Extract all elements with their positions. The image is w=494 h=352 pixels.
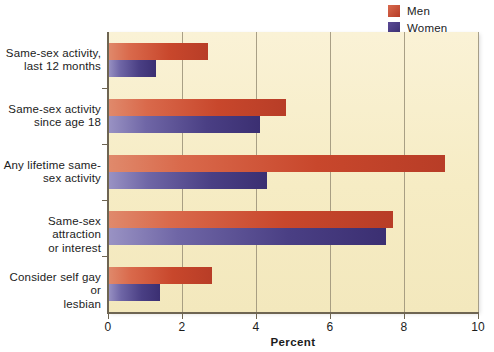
bar-men-0 [108,43,208,60]
category-label-0: Same-sex activity,last 12 months [0,47,101,74]
x-axis-tick-label: 8 [401,320,408,334]
x-axis-tick [182,313,183,319]
category-label-4: Consider self gay orlesbian [0,271,101,312]
bar-women-4 [108,284,160,301]
y-axis-line [107,32,109,313]
x-axis-tick [478,313,479,319]
category-label-line: since age 18 [0,116,101,130]
bar-women-3 [108,228,386,245]
chart-figure: Men Women Same-sex activity,last 12 mont… [0,0,494,352]
x-axis-tick-label: 2 [179,320,186,334]
legend-label-men: Men [407,5,430,17]
gridline [478,32,479,312]
bar-men-3 [108,211,393,228]
category-label-line: Same-sex attraction [0,215,101,242]
category-label-line: lesbian [0,298,101,312]
category-label-3: Same-sex attractionor interest [0,215,101,256]
gridline [330,32,331,312]
legend-swatch-men-icon [388,5,400,17]
legend-item-men: Men [388,3,490,18]
x-axis-line [107,312,479,314]
bar-women-2 [108,172,267,189]
x-axis-tick-label: 4 [253,320,260,334]
x-axis-tick [330,313,331,319]
category-label-line: or interest [0,242,101,256]
x-axis-tick [108,313,109,319]
category-label-line: sex activity [0,172,101,186]
x-axis-tick [404,313,405,319]
plot-area [108,32,478,312]
bar-men-1 [108,99,286,116]
category-label-line: Same-sex activity, [0,47,101,61]
category-label-line: Consider self gay or [0,271,101,298]
x-axis-tick-label: 6 [327,320,334,334]
category-axis-labels: Same-sex activity,last 12 monthsSame-sex… [0,32,101,312]
category-label-line: last 12 months [0,60,101,74]
bar-women-1 [108,116,260,133]
category-label-1: Same-sex activitysince age 18 [0,103,101,130]
x-axis-tick-label: 10 [471,320,485,334]
bar-women-0 [108,60,156,77]
category-label-2: Any lifetime same-sex activity [0,159,101,186]
bar-men-2 [108,155,445,172]
category-label-line: Any lifetime same- [0,159,101,173]
gridline [404,32,405,312]
category-label-line: Same-sex activity [0,103,101,117]
x-axis-tick-label: 0 [105,320,112,334]
x-axis-tick [256,313,257,319]
x-axis-title: Percent [108,336,478,348]
bar-men-4 [108,267,212,284]
